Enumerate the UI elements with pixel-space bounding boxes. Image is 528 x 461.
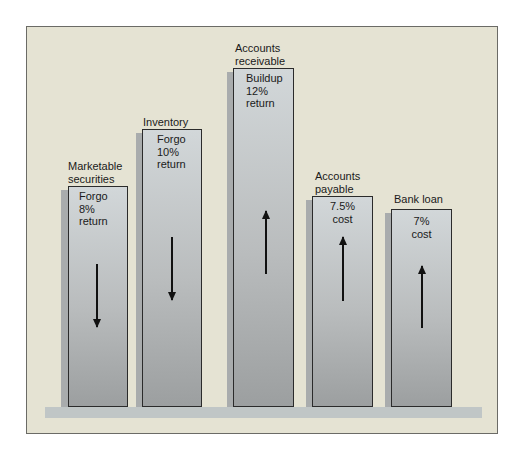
bar-text-line: 12% [246, 85, 293, 98]
bar-label-inventory: Inventory [143, 116, 188, 129]
label-line: Accounts [315, 170, 360, 183]
arrow-down-icon [96, 264, 98, 327]
bar-text: 7.5% cost [313, 200, 372, 225]
bar-text: 7% cost [392, 215, 451, 240]
bar-label-marketable-securities: Marketable securities [68, 160, 122, 185]
arrow-up-icon [342, 237, 344, 301]
bar-label-accounts-receivable: Accounts receivable [235, 42, 285, 67]
arrow-up-icon [265, 211, 267, 274]
label-line: receivable [235, 55, 285, 68]
label-line: Marketable [68, 160, 122, 173]
bar-marketable-securities: Forgo 8% return [68, 186, 128, 407]
bar-text-line: 7% [392, 215, 451, 228]
bar-text-line: 8% [79, 203, 127, 216]
label-line: Accounts [235, 42, 285, 55]
arrow-up-icon [421, 266, 423, 328]
label-line: securities [68, 173, 122, 186]
bar-label-bank-loan: Bank loan [394, 193, 443, 206]
bar-text-line: Forgo [157, 133, 201, 146]
label-line: Bank loan [394, 193, 443, 206]
bar-text: Buildup 12% return [234, 72, 293, 110]
bar-text-line: return [157, 158, 201, 171]
bar-text: Forgo 10% return [143, 133, 201, 171]
bar-text-line: cost [392, 228, 451, 241]
bar-text-line: 7.5% [313, 200, 372, 213]
bar-text-line: Forgo [79, 190, 127, 203]
bar-label-accounts-payable: Accounts payable [315, 170, 360, 195]
label-line: Inventory [143, 116, 188, 129]
base-strip [45, 407, 482, 418]
bar-text-line: return [79, 215, 127, 228]
bar-text-line: return [246, 97, 293, 110]
bar-text-line: Buildup [246, 72, 293, 85]
bar-text-line: cost [313, 213, 372, 226]
bar-accounts-receivable: Buildup 12% return [233, 68, 294, 407]
label-line: payable [315, 183, 360, 196]
arrow-down-icon [171, 237, 173, 300]
bar-text: Forgo 8% return [69, 190, 127, 228]
bar-accounts-payable: 7.5% cost [312, 196, 373, 407]
bar-text-line: 10% [157, 146, 201, 159]
